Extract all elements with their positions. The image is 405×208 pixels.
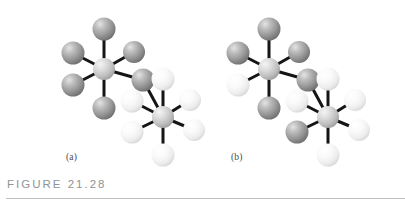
atom-sphere-light [121,121,144,144]
atom-sphere-dark [93,18,116,41]
molecule-panel-a [62,18,206,167]
atom-sphere-center [152,106,174,128]
atom-sphere-light [121,90,144,113]
atom-sphere-dark [258,18,281,41]
atom-sphere-dark [132,69,155,92]
atom-sphere-light [348,119,370,141]
atom-sphere-light [317,68,340,91]
atom-sphere-center [93,58,115,80]
molecule-panel-b [227,18,371,167]
molecule-svg [0,0,405,172]
atom-sphere-light [183,119,205,141]
molecule-diagram [0,0,405,172]
atom-sphere-dark [258,97,281,120]
figure-caption-text: FIGURE 21.28 [7,178,106,190]
atom-sphere-dark [286,121,309,144]
atom-sphere-dark [62,42,85,65]
figure-caption-block: FIGURE 21.28 [0,176,405,208]
atom-sphere-light [286,90,309,113]
atom-sphere-center [317,106,339,128]
atom-sphere-light [344,89,366,111]
atom-sphere-light [152,68,175,91]
atom-sphere-dark [288,41,310,63]
figure-container: (a) (b) FIGURE 21.28 [0,0,405,208]
panel-label-a: (a) [66,152,77,162]
atom-sphere-dark [297,69,320,92]
atom-sphere-dark [93,97,116,120]
atom-sphere-light [317,144,340,167]
atom-sphere-light [179,89,201,111]
atom-sphere-center [258,58,280,80]
atom-sphere-light [152,144,175,167]
atom-sphere-dark [227,42,250,65]
caption-divider-rule [6,198,405,199]
atom-sphere-light [227,74,250,97]
atom-sphere-dark [123,41,145,63]
atom-sphere-dark [62,74,85,97]
panel-label-b: (b) [231,152,243,162]
